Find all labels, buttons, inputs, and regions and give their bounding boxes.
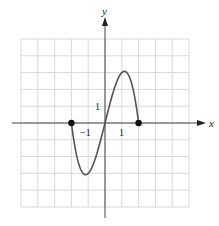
y-axis-arrow-icon (102, 17, 108, 26)
x-axis-label: x (208, 117, 214, 129)
axes (12, 17, 206, 218)
y-axis-label: y (101, 5, 107, 17)
y-tick-label-1: 1 (95, 101, 100, 112)
x-axis-arrow-icon (197, 120, 206, 126)
x-tick-label-1: 1 (119, 127, 124, 138)
function-graph: x y −1 1 1 (0, 0, 219, 226)
endpoint-dot (68, 120, 74, 126)
x-tick-label-neg1: −1 (80, 127, 91, 138)
endpoint-dot (135, 120, 141, 126)
